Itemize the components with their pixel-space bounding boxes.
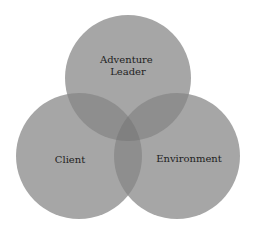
venn-diagram: Adventure Leader Client Environment bbox=[0, 0, 253, 227]
label-client: Client bbox=[55, 154, 85, 165]
label-adventure-leader-line2: Leader bbox=[110, 66, 146, 77]
label-environment: Environment bbox=[156, 153, 222, 164]
label-adventure-leader-line1: Adventure bbox=[99, 54, 153, 65]
